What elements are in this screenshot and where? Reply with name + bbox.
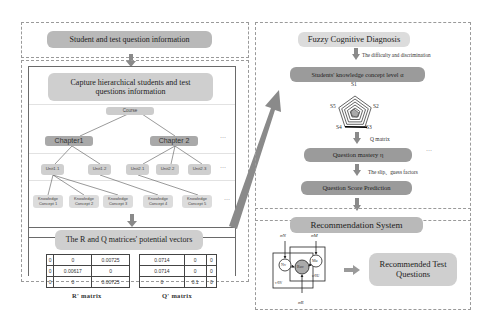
q-matrix-label: Q matrix xyxy=(370,136,390,142)
slip-guess-label: The slip、guess factors xyxy=(368,168,418,176)
node-n-label: Nv xyxy=(281,262,286,267)
plate-u-label: u∈U xyxy=(312,274,319,278)
arrow-down-icon xyxy=(353,132,361,145)
arrow-down-icon xyxy=(353,164,361,177)
node-m-label: Mu xyxy=(312,258,318,263)
arrow-right-icon xyxy=(344,265,360,275)
recommended-questions-pill: Recommended Test Questions xyxy=(369,253,457,286)
sigma-n-label: σN xyxy=(280,233,286,238)
radar-label-s1: S1 xyxy=(351,81,357,87)
diagnosis-ellipsis: ··· xyxy=(426,147,432,153)
difficulty-discrimination-label: The difficulty and discrimination xyxy=(362,52,431,58)
plate-v-label: v∈V xyxy=(275,281,282,285)
score-prediction-pill: Question Score Prediction xyxy=(301,181,412,195)
radar-label-s5: S5 xyxy=(330,103,336,109)
recommendation-system-pill: Recommendation System xyxy=(290,217,423,233)
radar-label-s4: S4 xyxy=(336,124,342,130)
radar-chart-icon xyxy=(330,88,380,138)
knowledge-level-pill: Students' knowledge concept level α xyxy=(290,67,425,82)
sigma-m-label: σM xyxy=(311,233,318,238)
fuzzy-diagnosis-pill: Fuzzy Cognitive Diagnosis xyxy=(298,32,410,47)
radar-label-s2: S2 xyxy=(373,103,379,109)
question-mastery-pill: Question mastery η xyxy=(304,148,412,162)
radar-label-s3: S3 xyxy=(366,124,372,130)
arrow-down-icon xyxy=(352,48,360,61)
sigma-r-label: σR xyxy=(298,300,304,305)
node-r-label: Ruv xyxy=(297,264,304,269)
